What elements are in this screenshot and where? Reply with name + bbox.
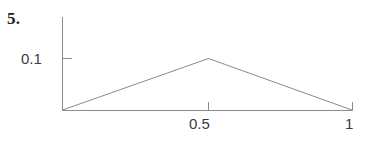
x-axis-tick-label-1: 1 — [345, 115, 353, 132]
figure-container: 5. 0.1 0.5 1 — [0, 0, 365, 157]
plot-area — [0, 0, 365, 157]
y-axis-tick-label-0-1: 0.1 — [21, 50, 42, 67]
data-curve-triangular — [63, 59, 353, 111]
x-axis-tick-label-0-5: 0.5 — [189, 115, 210, 132]
